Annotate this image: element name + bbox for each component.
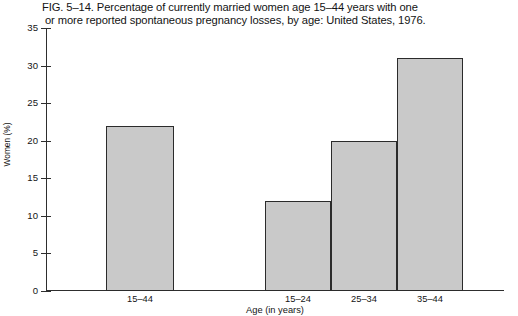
y-axis-tick-label-5: 5	[12, 248, 38, 258]
x-axis-tick-label-15-24: 15–24	[265, 294, 331, 304]
y-axis-tick-35	[41, 28, 51, 29]
x-axis-title: Age (in years)	[46, 305, 504, 315]
y-axis-tick-label-20: 20	[12, 136, 38, 146]
y-axis-tick-label-10: 10	[12, 211, 38, 221]
bar-35-44	[397, 58, 463, 291]
y-axis-tick-label-15-wrap: 15	[8, 173, 38, 183]
x-axis-tick-label-15-44-total: 15–44	[106, 294, 174, 304]
y-axis-tick-30	[41, 66, 51, 67]
y-axis-title: Women (%)	[3, 110, 12, 180]
y-axis-tick-25	[41, 103, 51, 104]
y-axis-line	[46, 28, 47, 291]
bar-15-44-total	[106, 126, 174, 291]
y-axis-tick-label-25-wrap: 25	[8, 98, 38, 108]
y-axis-tick-label-35: 35	[12, 23, 38, 33]
y-axis-tick-label-30: 30	[12, 61, 38, 71]
y-axis-tick-10	[41, 216, 51, 217]
y-axis-tick-0	[41, 291, 51, 292]
y-axis-tick-label-20-wrap: 20	[8, 136, 38, 146]
y-axis-tick-20	[41, 141, 51, 142]
bar-chart-plot-area: 35 30 25 20 15 10 5 0 Women (%)	[0, 0, 518, 316]
y-axis-tick-label-5-wrap: 5	[8, 248, 38, 258]
bar-25-34	[331, 141, 397, 291]
y-axis-tick-label-30-wrap: 30	[8, 61, 38, 71]
y-axis-tick-15	[41, 178, 51, 179]
y-axis-tick-label-10-wrap: 10	[8, 211, 38, 221]
y-axis-tick-label-0: 0	[12, 286, 38, 296]
y-axis-tick-label-15: 15	[12, 173, 38, 183]
y-axis-tick-label-0-wrap: 0	[8, 286, 38, 296]
x-axis-tick-label-35-44: 35–44	[397, 294, 463, 304]
y-axis-tick-label-25: 25	[12, 98, 38, 108]
bar-15-24	[265, 201, 331, 291]
figure-root: FIG. 5–14. Percentage of currently marri…	[0, 0, 518, 316]
y-axis-tick-label-35-wrap: 35	[8, 23, 38, 33]
x-axis-tick-label-25-34: 25–34	[331, 294, 397, 304]
y-axis-tick-5	[41, 253, 51, 254]
